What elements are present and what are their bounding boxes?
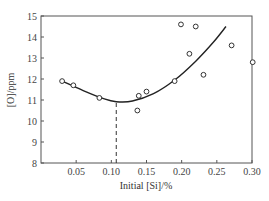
- y-tick-label: 11: [27, 95, 37, 106]
- data-point-marker: [229, 43, 234, 48]
- data-point-marker: [135, 108, 140, 113]
- data-point-marker: [172, 79, 177, 84]
- data-points: [60, 22, 255, 113]
- y-tick-label: 10: [27, 116, 37, 127]
- x-tick-label: 0.15: [138, 166, 156, 177]
- x-tick-label: 0.25: [208, 166, 226, 177]
- data-point-marker: [144, 89, 149, 94]
- data-point-marker: [71, 83, 76, 88]
- data-point-marker: [97, 96, 102, 101]
- x-axis-title: Initial [Si]/%: [120, 180, 173, 191]
- data-point-marker: [60, 79, 65, 84]
- data-point-marker: [201, 72, 206, 77]
- scatter-chart: 89101112131415 0.050.100.150.200.250.30 …: [0, 0, 269, 201]
- x-tick-label: 0.30: [243, 166, 261, 177]
- data-point-marker: [179, 22, 184, 27]
- y-tick-label: 9: [32, 137, 37, 148]
- data-point-marker: [136, 93, 141, 98]
- y-tick-label: 8: [32, 158, 37, 169]
- x-tick-label: 0.10: [103, 166, 121, 177]
- y-tick-label: 15: [27, 11, 37, 22]
- data-point-marker: [193, 24, 198, 29]
- y-tick-label: 13: [27, 53, 37, 64]
- x-tick-label: 0.20: [173, 166, 191, 177]
- y-axis-title: [O]/ppm: [5, 73, 16, 108]
- data-point-marker: [250, 60, 255, 65]
- data-point-marker: [187, 51, 192, 56]
- y-tick-label: 14: [27, 32, 37, 43]
- y-tick-label: 12: [27, 74, 37, 85]
- x-tick-label: 0.05: [67, 166, 85, 177]
